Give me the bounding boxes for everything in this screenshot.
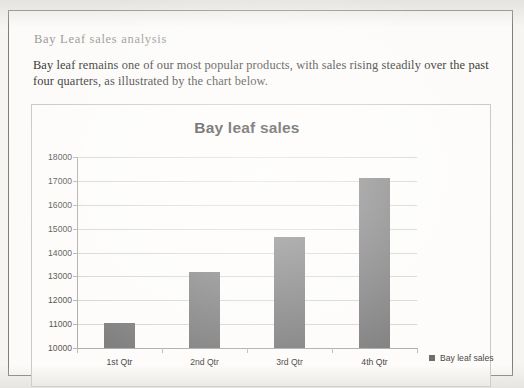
legend-label: Bay leaf sales <box>440 353 494 363</box>
y-axis-tick-label: 10000 <box>36 343 72 353</box>
x-axis-tick <box>417 348 418 353</box>
x-axis-tick <box>77 348 78 353</box>
bar <box>104 323 135 348</box>
bar <box>189 272 220 348</box>
legend-swatch-icon <box>429 355 435 361</box>
y-axis-tick-label: 14000 <box>36 248 72 258</box>
scanned-page: Bay Leaf sales analysis Bay leaf remains… <box>0 0 524 388</box>
y-axis-line <box>77 157 78 349</box>
chart-title: Bay leaf sales <box>32 119 462 137</box>
x-axis-tick-label: 4th Qtr <box>332 357 417 367</box>
x-axis-tick <box>332 348 333 353</box>
x-axis-tick <box>247 348 248 353</box>
y-axis-tick-label: 18000 <box>36 152 72 162</box>
y-axis-labels: 1000011000120001300014000150001600017000… <box>32 157 72 348</box>
page-title: Bay Leaf sales analysis <box>34 32 167 47</box>
y-axis-tick-label: 16000 <box>36 200 72 210</box>
x-axis-tick-label: 2nd Qtr <box>162 357 247 367</box>
plot-area <box>77 157 417 348</box>
page-border: Bay Leaf sales analysis Bay leaf remains… <box>8 10 513 376</box>
bar <box>274 237 305 348</box>
y-axis-tick-label: 11000 <box>36 319 72 329</box>
x-axis-tick-label: 1st Qtr <box>77 357 162 367</box>
x-axis-tick-label: 3rd Qtr <box>247 357 332 367</box>
document-paragraph: Bay leaf remains one of our most popular… <box>33 58 493 89</box>
chart-container: Bay leaf sales 1000011000120001300014000… <box>31 104 491 387</box>
y-axis-tick-label: 15000 <box>36 224 72 234</box>
y-axis-tick-label: 13000 <box>36 271 72 281</box>
chart-legend: Bay leaf sales <box>429 353 494 363</box>
x-axis-tick <box>162 348 163 353</box>
y-axis-tick-label: 12000 <box>36 295 72 305</box>
bar <box>359 178 390 348</box>
gridline <box>77 157 417 158</box>
y-axis-tick-label: 17000 <box>36 176 72 186</box>
